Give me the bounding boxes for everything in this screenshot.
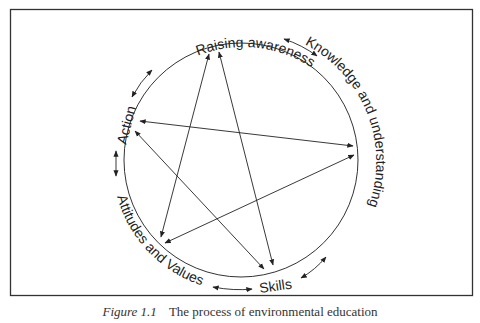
arrow-raising-skills xyxy=(219,52,273,265)
arrow-action-knowledge xyxy=(140,121,353,146)
inner-arrows xyxy=(135,52,354,269)
label-action: Action xyxy=(113,104,139,146)
figure-frame xyxy=(11,10,473,296)
arrow-skills-attitudes xyxy=(213,287,252,290)
arrow-raising-attitudes xyxy=(161,54,209,237)
figure-title: The process of environmental education xyxy=(169,304,378,319)
environmental-education-diagram: Action Raising awareness Knowledge and u… xyxy=(0,0,480,323)
arrow-knowledge-attitudes xyxy=(165,155,354,243)
arrow-action-raising xyxy=(132,70,152,97)
figure-number: Figure 1.1 xyxy=(102,304,156,319)
label-attitudes-values: Attitudes and Values xyxy=(114,193,206,289)
cycle-circle xyxy=(124,43,358,277)
figure-caption: Figure 1.1The process of environmental e… xyxy=(0,304,480,320)
label-skills: Skills xyxy=(258,276,293,296)
label-raising-awareness: Raising awareness xyxy=(194,34,319,70)
arrow-knowledge-skills xyxy=(301,257,326,278)
